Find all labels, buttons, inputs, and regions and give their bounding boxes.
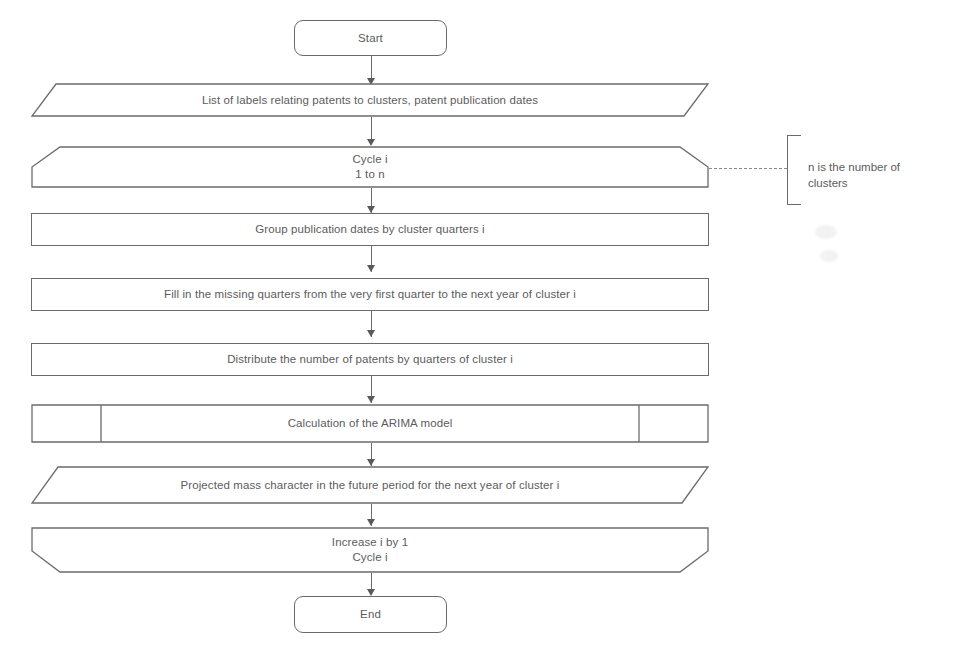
flowchart-canvas: Start List of labels relating patents to… — [0, 0, 957, 651]
arrowhead-distribute-to-arima — [367, 396, 375, 403]
node-group[interactable]: Group publication dates by cluster quart… — [31, 213, 709, 246]
node-arima-shape[interactable] — [31, 404, 709, 443]
annotation-bracket — [787, 135, 801, 205]
connector-loopstart-to-note — [709, 168, 787, 169]
arrowhead-input-to-loopstart — [367, 139, 375, 146]
node-input-shape[interactable] — [31, 83, 709, 117]
node-fill-label: Fill in the missing quarters from the ve… — [164, 287, 576, 302]
node-loop-end-shape[interactable] — [31, 527, 709, 573]
scan-artifact — [820, 250, 838, 262]
node-group-label: Group publication dates by cluster quart… — [255, 222, 485, 237]
arrowhead-group-to-fill — [367, 265, 375, 272]
node-end[interactable]: End — [294, 596, 447, 633]
node-output-shape[interactable] — [31, 466, 709, 504]
arrowhead-loopend-to-end — [367, 589, 375, 596]
arrowhead-output-to-loopend — [367, 519, 375, 526]
node-distribute-label: Distribute the number of patents by quar… — [227, 352, 513, 367]
scan-artifact — [815, 225, 837, 239]
node-start-label: Start — [358, 31, 383, 46]
arrowhead-arima-to-output — [367, 459, 375, 466]
node-distribute[interactable]: Distribute the number of patents by quar… — [31, 343, 709, 376]
node-fill[interactable]: Fill in the missing quarters from the ve… — [31, 278, 709, 311]
node-loop-start-shape[interactable] — [31, 146, 709, 188]
node-end-label: End — [360, 607, 381, 622]
arrowhead-loopstart-to-group — [367, 206, 375, 213]
arrowhead-fill-to-distribute — [367, 330, 375, 337]
annotation-n-note: n is the number of clusters — [808, 159, 948, 191]
node-start[interactable]: Start — [294, 20, 447, 56]
